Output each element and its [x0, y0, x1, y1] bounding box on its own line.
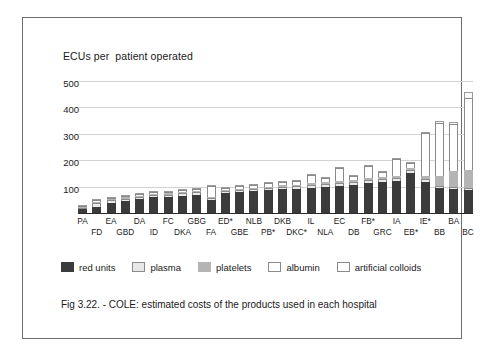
bar-dkb[interactable] — [278, 181, 287, 213]
bar-segment-red-units — [378, 182, 387, 213]
bar-segment-red-units — [349, 185, 358, 214]
bar-segment-red-units — [192, 195, 201, 213]
bar-segment-red-units — [307, 188, 316, 213]
x-axis-line — [78, 213, 473, 214]
y-axis-tick-labels: 100200300400500 — [53, 73, 79, 223]
x-tick-spacer — [307, 227, 316, 239]
bar-segment-red-units — [421, 182, 430, 213]
bar-fd[interactable] — [92, 199, 101, 213]
bar-iestar[interactable] — [421, 132, 430, 213]
y-axis-title: ECUs per patient operated — [63, 50, 193, 62]
bar-fbstar[interactable] — [364, 165, 373, 213]
bar-segment-red-units — [221, 193, 230, 213]
x-tick-spacer — [249, 227, 258, 239]
bar-segment-red-units — [321, 187, 330, 213]
x-tick-spacer — [107, 227, 116, 239]
bar-segment-red-units — [249, 191, 258, 213]
x-tick-label: BC — [464, 227, 473, 239]
bar-segment-artificial-colloids — [464, 92, 473, 99]
figure-frame: ECUs per patient operated 10020030040050… — [22, 17, 462, 339]
legend-item-red-units[interactable]: red units — [61, 262, 115, 273]
legend-swatch-platelets — [198, 262, 211, 272]
y-tick-label: 100 — [63, 183, 79, 194]
bar-ebstar[interactable] — [406, 162, 415, 213]
bar-id[interactable] — [149, 191, 158, 213]
bar-pbstar[interactable] — [264, 182, 273, 213]
y-tick-label: 200 — [63, 157, 79, 168]
bar-segment-albumin — [464, 98, 473, 169]
legend-label: platelets — [216, 262, 251, 273]
bar-bc[interactable] — [464, 92, 473, 213]
x-tick-spacer — [192, 227, 201, 239]
bar-segment-red-units — [264, 190, 273, 213]
x-tick-spacer — [392, 227, 401, 239]
x-tick-spacer — [421, 227, 430, 239]
bar-dka[interactable] — [178, 189, 187, 213]
y-tick-label: 400 — [63, 104, 79, 115]
x-tick-label: DKA — [178, 227, 187, 239]
x-axis-tick-labels: PAEADAFCGBGED*NLBDKBILECFB*IAIE*BA FDGBD… — [78, 216, 473, 242]
legend-item-artificial-colloids[interactable]: artificial colloids — [337, 262, 422, 273]
chart-legend: red unitsplasmaplateletsalbuminartificia… — [61, 258, 471, 276]
bar-segment-albumin — [207, 186, 216, 198]
bar-dkcstar[interactable] — [292, 180, 301, 213]
bar-fc[interactable] — [164, 191, 173, 213]
x-tick-label: DB — [349, 227, 358, 239]
bar-edstar[interactable] — [221, 187, 230, 213]
bar-segment-red-units — [135, 199, 144, 213]
bar-grc[interactable] — [378, 171, 387, 213]
bar-fa[interactable] — [207, 185, 216, 213]
bar-ba[interactable] — [449, 122, 458, 213]
bar-il[interactable] — [307, 174, 316, 213]
bar-db[interactable] — [349, 175, 358, 214]
bar-segment-albumin — [435, 123, 444, 176]
x-tick-label: EB* — [406, 227, 415, 239]
bar-segment-red-units — [92, 207, 101, 213]
bar-segment-albumin — [335, 168, 344, 181]
legend-swatch-artificial-colloids — [337, 262, 350, 272]
bar-segment-red-units — [149, 197, 158, 213]
x-tick-label: FA — [207, 227, 216, 239]
x-tick-spacer — [449, 227, 458, 239]
bar-segment-red-units — [406, 173, 415, 213]
x-tick-label: DKC* — [292, 227, 301, 239]
bar-segment-red-units — [278, 189, 287, 213]
x-tick-spacer — [221, 227, 230, 239]
legend-label: red units — [79, 262, 115, 273]
x-tick-label: PB* — [264, 227, 273, 239]
bar-bb[interactable] — [435, 121, 444, 213]
bar-gbd[interactable] — [121, 195, 130, 213]
bar-segment-red-units — [464, 190, 473, 213]
bar-segment-red-units — [235, 192, 244, 213]
bar-series-container — [78, 81, 473, 213]
bar-ea[interactable] — [107, 197, 116, 213]
legend-item-albumin[interactable]: albumin — [268, 262, 319, 273]
bar-segment-red-units — [364, 183, 373, 213]
legend-item-platelets[interactable]: platelets — [198, 262, 251, 273]
legend-swatch-albumin — [268, 262, 281, 272]
bar-ec[interactable] — [335, 167, 344, 213]
bar-segment-red-units — [78, 209, 87, 213]
bar-gbg[interactable] — [192, 188, 201, 213]
bar-segment-red-units — [335, 186, 344, 213]
bar-segment-red-units — [292, 189, 301, 213]
bar-nlb[interactable] — [249, 184, 258, 213]
x-tick-spacer — [164, 227, 173, 239]
bar-segment-red-units — [178, 196, 187, 213]
x-tick-label: BB — [435, 227, 444, 239]
bar-segment-albumin — [392, 159, 401, 175]
bar-segment-albumin — [307, 175, 316, 183]
bar-ia[interactable] — [392, 158, 401, 213]
bar-segment-red-units — [164, 197, 173, 213]
x-tick-label: GBE — [235, 227, 244, 239]
bar-nla[interactable] — [321, 177, 330, 213]
bar-segment-platelets — [464, 170, 473, 188]
bar-pa[interactable] — [78, 205, 87, 213]
bar-da[interactable] — [135, 193, 144, 213]
legend-item-plasma[interactable]: plasma — [132, 262, 181, 273]
x-tick-spacer — [335, 227, 344, 239]
bar-gbe[interactable] — [235, 185, 244, 213]
y-tick-label: 300 — [63, 130, 79, 141]
legend-swatch-red-units — [61, 262, 74, 272]
bar-segment-platelets — [449, 171, 458, 187]
